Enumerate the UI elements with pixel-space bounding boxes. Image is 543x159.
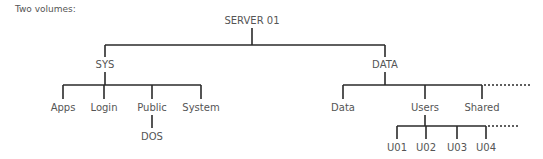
node-sys-volume: SYS — [96, 59, 115, 70]
node-apps: Apps — [51, 102, 76, 113]
node-shared: Shared — [464, 102, 499, 113]
node-data-volume: DATA — [372, 59, 398, 70]
node-u02: U02 — [416, 142, 436, 153]
node-u01: U01 — [387, 142, 407, 153]
node-server-01: SERVER 01 — [224, 15, 279, 26]
node-dos: DOS — [141, 131, 163, 142]
node-public: Public — [137, 102, 167, 113]
node-users: Users — [411, 102, 439, 113]
directory-tree-diagram: SERVER 01 SYS Apps Login Public System D… — [0, 0, 543, 159]
node-system: System — [182, 102, 219, 113]
node-login: Login — [91, 102, 118, 113]
node-data-dir: Data — [331, 102, 355, 113]
node-u03: U03 — [447, 142, 467, 153]
node-u04: U04 — [476, 142, 496, 153]
